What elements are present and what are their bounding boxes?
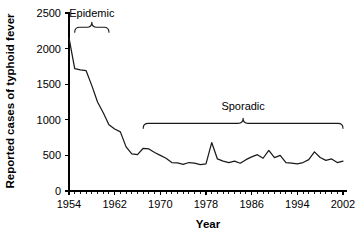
annotation-label-epidemic: Epidemic <box>69 7 115 19</box>
x-tick-label: 1994 <box>285 198 309 210</box>
x-tick-label: 1970 <box>148 198 172 210</box>
y-axis-tick-marks <box>65 13 69 191</box>
y-tick-label: 2500 <box>37 7 61 19</box>
y-tick-label: 1500 <box>37 78 61 90</box>
x-tick-label: 1986 <box>239 198 263 210</box>
annotation-brace-sporadic <box>143 118 343 128</box>
typhoid-fever-line-chart: 05001000150020002500 1954196219701978198… <box>0 0 364 240</box>
annotation-brace-epidemic <box>75 22 109 32</box>
chart-canvas: 05001000150020002500 1954196219701978198… <box>0 0 364 240</box>
x-axis-tick-marks <box>69 191 343 195</box>
x-tick-label: 2002 <box>331 198 355 210</box>
y-axis-title: Reported cases of typhoid fever <box>4 13 16 189</box>
annotation-label-sporadic: Sporadic <box>221 100 265 112</box>
data-series-typhoid-cases <box>69 38 343 165</box>
y-tick-label: 0 <box>55 185 61 197</box>
y-axis-tick-labels: 05001000150020002500 <box>37 7 61 197</box>
x-tick-label: 1962 <box>102 198 126 210</box>
x-axis-title: Year <box>196 218 221 230</box>
y-tick-label: 2000 <box>37 43 61 55</box>
chart-annotations: EpidemicSporadic <box>69 7 343 128</box>
x-axis-tick-labels: 1954196219701978198619942002 <box>57 198 355 210</box>
y-tick-label: 500 <box>43 149 61 161</box>
x-tick-label: 1978 <box>194 198 218 210</box>
x-tick-label: 1954 <box>57 198 81 210</box>
y-tick-label: 1000 <box>37 114 61 126</box>
